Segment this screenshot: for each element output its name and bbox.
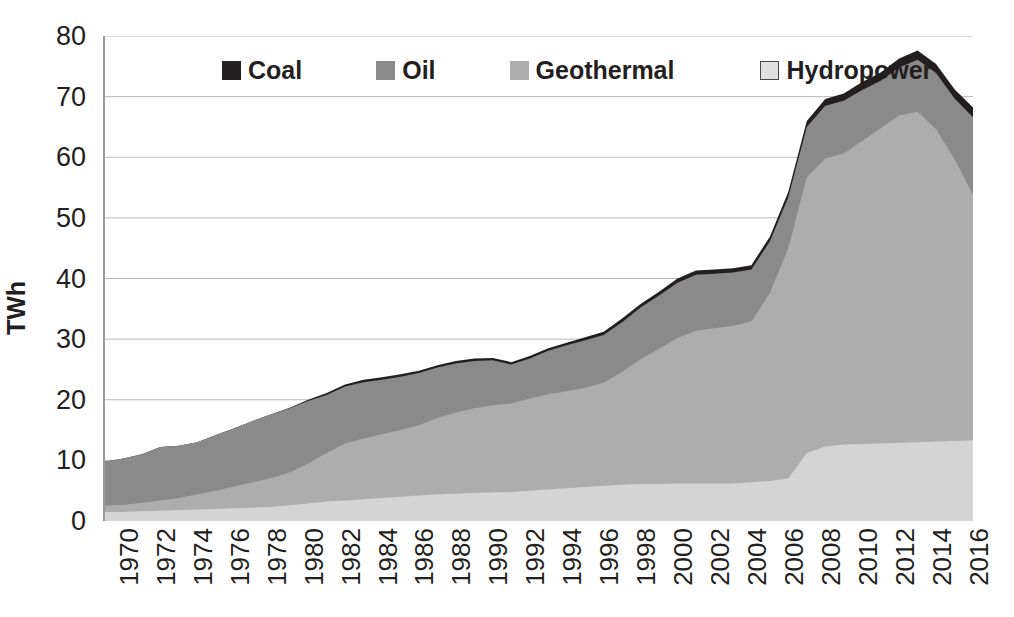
y-tick-label: 10 [56, 447, 86, 474]
chart-legend: CoalOilGeothermalHydropower [222, 58, 932, 83]
y-tick-label: 60 [56, 144, 86, 171]
legend-swatch-icon [510, 61, 529, 80]
area-chart-figure: 01020304050607080 TWh 197019721974197619… [0, 0, 1014, 617]
x-tick-label: 2012 [892, 528, 918, 586]
x-tick-label: 2014 [929, 528, 955, 586]
x-tick-label: 2000 [670, 528, 696, 586]
y-tick-label: 50 [56, 204, 86, 231]
legend-swatch-icon [760, 61, 779, 80]
legend-label: Coal [248, 58, 302, 83]
x-tick-label: 1986 [411, 528, 437, 586]
y-axis-title: TWh [2, 281, 31, 335]
x-tick-label: 2016 [966, 528, 992, 586]
legend-item-oil[interactable]: Oil [376, 58, 435, 83]
x-tick-label: 2010 [855, 528, 881, 586]
x-tick-label: 2002 [707, 528, 733, 586]
y-tick-label: 80 [56, 23, 86, 50]
y-tick-label: 40 [56, 265, 86, 292]
x-tick-label: 1972 [153, 528, 179, 586]
x-tick-label: 1988 [448, 528, 474, 586]
y-tick-label: 20 [56, 386, 86, 413]
stacked-area-layers [105, 51, 973, 521]
legend-swatch-icon [222, 61, 241, 80]
legend-item-coal[interactable]: Coal [222, 58, 302, 83]
x-tick-label: 2004 [744, 528, 770, 586]
x-tick-label: 1998 [633, 528, 659, 586]
x-tick-label: 1994 [559, 528, 585, 586]
x-tick-label: 1976 [227, 528, 253, 586]
x-tick-label: 1974 [190, 528, 216, 586]
y-tick-label: 70 [56, 83, 86, 110]
legend-label: Geothermal [536, 58, 675, 83]
plot-area [103, 36, 971, 521]
x-tick-label: 1980 [301, 528, 327, 586]
x-tick-label: 1984 [375, 528, 401, 586]
x-tick-label: 2008 [818, 528, 844, 586]
x-tick-label: 1978 [264, 528, 290, 586]
y-axis-title-container: TWh [10, 268, 46, 348]
legend-item-hydropower[interactable]: Hydropower [760, 58, 932, 83]
x-tick-label: 1992 [522, 528, 548, 586]
x-axis: 1970197219741976197819801982198419861988… [103, 528, 971, 616]
x-tick-label: 1982 [338, 528, 364, 586]
x-tick-label: 1970 [116, 528, 142, 586]
x-tick-label: 1996 [596, 528, 622, 586]
legend-swatch-icon [376, 61, 395, 80]
x-tick-label: 2006 [781, 528, 807, 586]
legend-label: Oil [402, 58, 435, 83]
y-tick-label: 0 [71, 508, 86, 535]
y-tick-label: 30 [56, 326, 86, 353]
legend-label: Hydropower [786, 58, 932, 83]
x-tick-label: 1990 [485, 528, 511, 586]
chart-canvas [105, 36, 973, 521]
legend-item-geothermal[interactable]: Geothermal [510, 58, 675, 83]
